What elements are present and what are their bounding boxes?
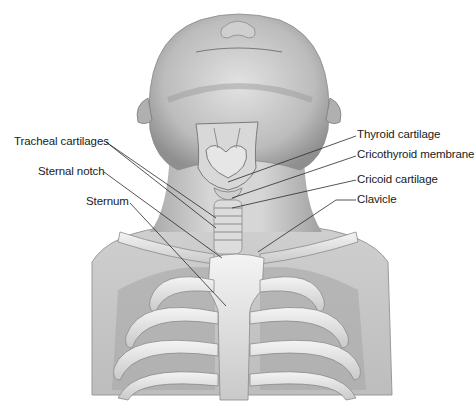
label-thyroid-cartilage: Thyroid cartilage [357,128,440,141]
label-sternum: Sternum [86,195,129,208]
anatomy-illustration [0,0,476,408]
trachea [214,200,242,254]
label-clavicle: Clavicle [357,193,396,206]
label-cricoid-cartilage: Cricoid cartilage [357,173,438,186]
label-sternal-notch: Sternal notch [38,165,104,178]
label-tracheal-cartilages: Tracheal cartilages [14,135,109,148]
label-cricothyroid-membrane: Cricothyroid membrane [357,148,474,161]
